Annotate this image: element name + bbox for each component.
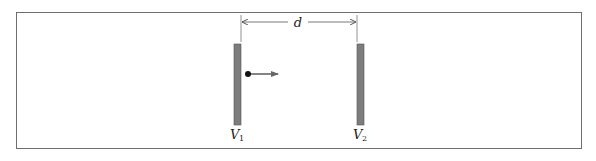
left-plate: [234, 44, 241, 125]
right-plate-voltage-label: V 2: [353, 127, 367, 143]
svg-text:1: 1: [239, 134, 244, 143]
right-plate: [357, 44, 364, 125]
dimension-indicator: d: [241, 15, 357, 42]
left-plate-voltage-label: V 1: [230, 127, 244, 143]
svg-text:2: 2: [362, 134, 367, 143]
charged-particle: [245, 71, 251, 77]
distance-label: d: [294, 15, 302, 30]
parallel-plates-diagram: d V 1 V 2: [0, 0, 596, 161]
